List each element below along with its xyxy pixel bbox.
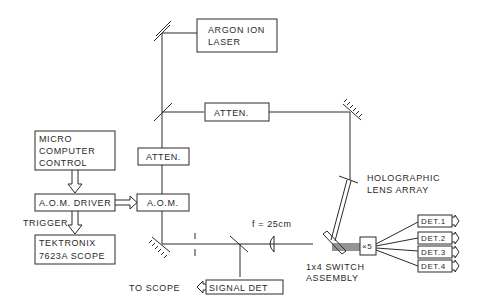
beam-paths (162, 33, 418, 277)
tektronix-scope-box: TEKTRONIX 7623A SCOPE (35, 235, 115, 264)
attenuator-left-box: ATTEN. (138, 148, 189, 165)
switch-mirror (323, 231, 346, 254)
holographic-label-1: HOLOGRAPHIC (367, 173, 440, 183)
detector-2: DET.2 (418, 232, 459, 244)
svg-text:×5: ×5 (362, 242, 372, 251)
svg-text:DET.3: DET.3 (421, 248, 446, 257)
svg-text:SIGNAL DET: SIGNAL DET (209, 283, 268, 293)
aom-driver-box: A.O.M. DRIVER (35, 194, 115, 211)
arrow-down-icon (68, 211, 82, 234)
attenuator-top-box: ATTEN. (205, 103, 269, 121)
micro-computer-control-box: MICRO COMPUTER CONTROL (35, 131, 115, 170)
detector-3: DET.3 (418, 246, 459, 258)
svg-text:A.O.M. DRIVER: A.O.M. DRIVER (39, 198, 111, 208)
switch-label-1: 1x4 SWITCH (306, 262, 365, 272)
svg-text:TEKTRONIX: TEKTRONIX (39, 238, 96, 248)
arrow-down-icon (68, 170, 82, 193)
mirror-top-right (343, 99, 362, 120)
arrow-right-icon (452, 215, 459, 227)
amplifier-x5-box: ×5 (360, 237, 376, 255)
arrow-left-icon (197, 281, 206, 293)
svg-text:DET.2: DET.2 (421, 234, 446, 243)
arrow-right-icon (452, 246, 459, 258)
arrow-right-icon (452, 232, 459, 244)
svg-text:CONTROL: CONTROL (39, 158, 87, 168)
svg-text:A.O.M.: A.O.M. (147, 198, 179, 208)
argon-ion-laser-box: ARGON ION LASER (197, 19, 277, 52)
signal-det-box: SIGNAL DET (206, 280, 283, 294)
svg-text:DET.1: DET.1 (421, 217, 446, 226)
svg-text:ARGON ION: ARGON ION (208, 25, 265, 35)
arrow-right-icon (452, 260, 459, 272)
detector-1: DET.1 (418, 215, 459, 227)
optical-diagram: ARGON ION LASER ATTEN. ATTEN. A.O.M. MIC… (0, 0, 483, 307)
svg-text:MICRO: MICRO (39, 134, 72, 144)
mirror-bottom-left (149, 237, 170, 258)
arrow-right-icon (115, 196, 137, 209)
trigger-label: TRIGGER (23, 218, 68, 228)
holographic-label-2: LENS ARRAY (367, 185, 429, 195)
aom-box: A.O.M. (137, 194, 189, 211)
svg-text:ATTEN.: ATTEN. (214, 108, 249, 118)
svg-text:ATTEN.: ATTEN. (146, 152, 181, 162)
svg-text:DET.4: DET.4 (421, 262, 446, 271)
lens-focal-label: f = 25cm (252, 219, 292, 229)
detector-4: DET.4 (418, 260, 459, 272)
svg-text:COMPUTER: COMPUTER (39, 146, 95, 156)
svg-text:LASER: LASER (208, 37, 241, 47)
svg-text:7623A SCOPE: 7623A SCOPE (39, 251, 105, 261)
switch-label-2: ASSEMBLY (306, 273, 359, 283)
to-scope-label: TO SCOPE (129, 283, 180, 293)
holographic-lens-element (339, 176, 358, 183)
